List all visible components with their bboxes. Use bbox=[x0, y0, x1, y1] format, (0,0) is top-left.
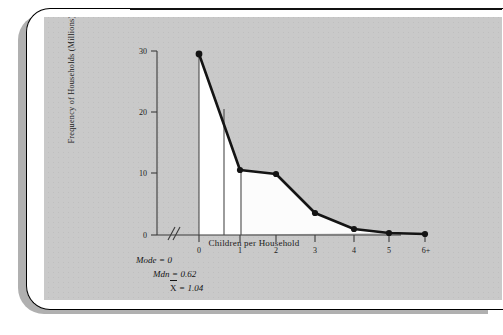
data-point bbox=[237, 167, 243, 173]
statistic-mean-row: X=1.04 bbox=[170, 281, 203, 295]
chart-plot-area: 30 20 10 0 0 1 2 3 bbox=[44, 17, 502, 300]
statistic-mode-value: 0 bbox=[168, 255, 173, 265]
data-point bbox=[312, 210, 318, 216]
x-tick-label-6plus: 6+ bbox=[422, 246, 431, 255]
equals-sign: = bbox=[157, 255, 168, 265]
equals-sign: = bbox=[177, 283, 188, 293]
y-tick-label-10: 10 bbox=[139, 169, 147, 178]
data-point bbox=[196, 51, 203, 58]
statistic-median-label: Mdn bbox=[153, 269, 170, 279]
frequency-polygon-chart: 30 20 10 0 0 1 2 3 bbox=[44, 17, 502, 300]
x-axis-label: Children per Household bbox=[144, 238, 364, 248]
decorative-frame-top-rule bbox=[130, 8, 502, 10]
curve-fill-area bbox=[199, 54, 240, 235]
y-axis-label: Frequency of Households (Millions) bbox=[67, 17, 76, 170]
y-tick-label-30: 30 bbox=[139, 47, 147, 56]
x-tick-label-5: 5 bbox=[387, 246, 391, 255]
statistic-mode-row: Mode=0 bbox=[136, 253, 203, 267]
data-point bbox=[386, 230, 392, 236]
statistic-median-row: Mdn=0.62 bbox=[153, 267, 203, 281]
statistic-mean-value: 1.04 bbox=[188, 283, 204, 293]
equals-sign: = bbox=[170, 269, 181, 279]
y-tick-label-20: 20 bbox=[139, 108, 147, 117]
statistics-block: Mode=0 Mdn=0.62 X=1.04 bbox=[136, 253, 203, 295]
statistic-median-value: 0.62 bbox=[181, 269, 197, 279]
data-point bbox=[351, 226, 357, 232]
data-point bbox=[273, 171, 279, 177]
statistic-mode-label: Mode bbox=[136, 255, 157, 265]
data-point bbox=[422, 231, 428, 237]
figure-panel: 30 20 10 0 0 1 2 3 bbox=[44, 17, 502, 300]
statistic-mean-label: X bbox=[170, 281, 177, 295]
